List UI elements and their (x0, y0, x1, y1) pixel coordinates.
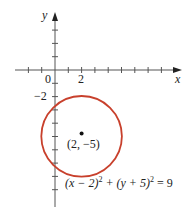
equation-part3: = 9 (154, 176, 173, 190)
circle-equation: (x − 2)2 + (y + 5)2 = 9 (65, 175, 173, 190)
center-label: (2, −5) (67, 137, 100, 151)
x-axis (15, 67, 176, 73)
origin-label: 0 (45, 72, 51, 86)
equation-part1: (x − 2) (65, 176, 98, 190)
y-axis-label: y (41, 8, 48, 22)
x-tick-label: 2 (78, 72, 84, 86)
y-tick-label: −2 (34, 89, 47, 103)
y-axis (52, 18, 58, 207)
y-axis-arrow-icon (52, 12, 58, 21)
equation-part2: + (y + 5) (102, 176, 150, 190)
circle-graph: y x 0 2 −2 (2, −5) (x − 2)2 + (y + 5)2 =… (0, 0, 195, 207)
x-axis-label: x (174, 72, 181, 86)
center-point (80, 132, 84, 136)
